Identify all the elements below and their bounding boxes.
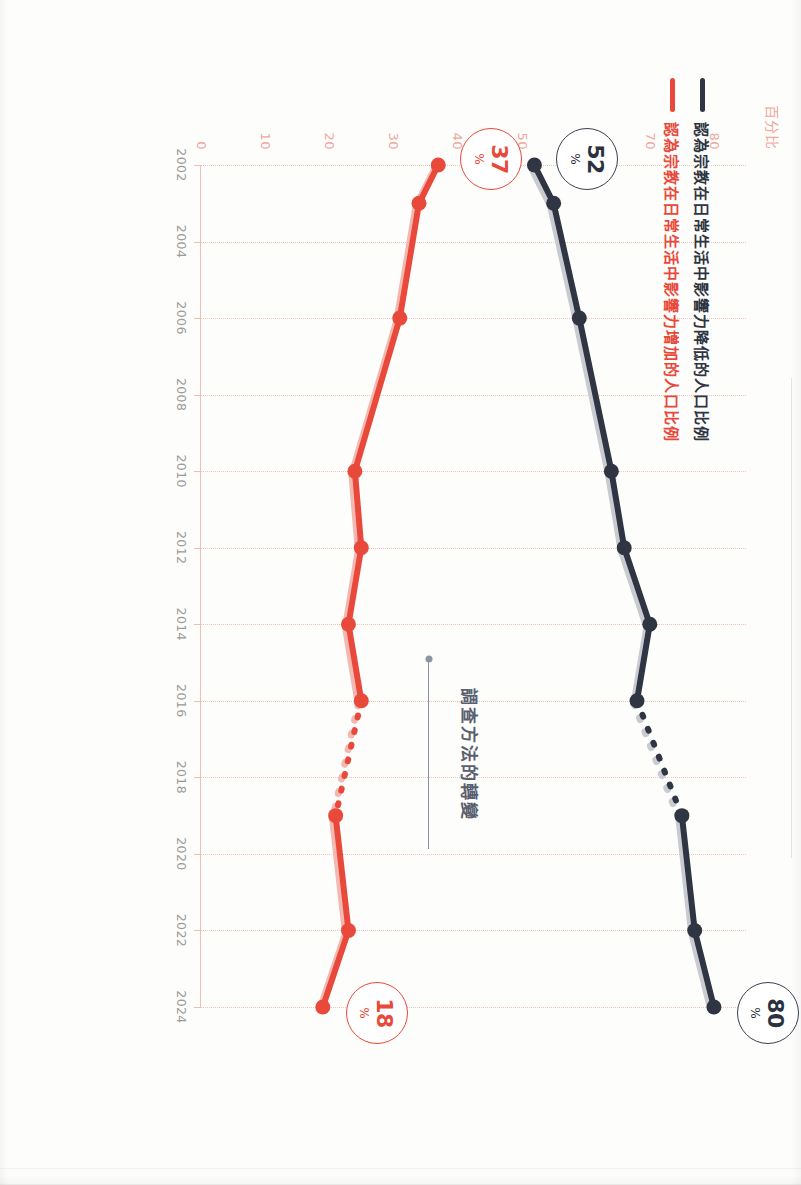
data-point-0-2014 (642, 617, 657, 632)
annotation-label: 調查方法的轉變 (458, 688, 483, 821)
legend-item-increase: 認為宗教在日常生活中影響力增加的人口比例 (662, 78, 683, 442)
annotation-anchor-dot (425, 656, 432, 663)
data-point-1-2024 (315, 1000, 330, 1015)
callout-start-red-value: 37 (488, 144, 510, 174)
data-point-1-2010 (347, 464, 362, 479)
data-point-0-2022 (687, 923, 702, 938)
data-point-1-2012 (354, 540, 369, 555)
data-point-1-2019 (328, 808, 343, 823)
callout-end-red: 18 % (346, 982, 408, 1044)
callout-end-dark-unit: % (749, 1007, 761, 1018)
data-point-0-2019 (674, 808, 689, 823)
legend-swatch-decrease (700, 78, 705, 112)
callout-start-red: 37 % (460, 128, 522, 190)
data-point-1-2022 (341, 923, 356, 938)
rotated-chart-stage: 百分比 01020304050607080 200220042006200820… (0, 0, 801, 1185)
legend-label-decrease: 認為宗教在日常生活中影響力降低的人口比例 (692, 122, 713, 442)
legend-item-decrease: 認為宗教在日常生活中影響力降低的人口比例 (692, 78, 713, 442)
series-0-line-seg-0 (534, 165, 649, 701)
line-chart-figure: 百分比 01020304050607080 200220042006200820… (0, 0, 801, 1185)
data-point-1-2014 (341, 617, 356, 632)
callout-start-red-unit: % (473, 153, 485, 164)
series-0-break-shadow (634, 704, 679, 819)
callout-start-dark-value: 52 (584, 144, 606, 174)
annotation-leader-line (428, 659, 429, 849)
callout-start-dark: 52 % (556, 128, 618, 190)
series-0-break-line (637, 701, 682, 816)
data-point-0-2006 (572, 311, 587, 326)
data-point-0-2002 (527, 158, 542, 173)
callout-end-dark-value: 80 (764, 998, 786, 1028)
data-point-1-2002 (431, 158, 446, 173)
data-point-0-2003 (546, 196, 561, 211)
callout-start-dark-unit: % (569, 153, 581, 164)
data-point-0-2010 (604, 464, 619, 479)
callout-end-red-value: 18 (373, 998, 395, 1028)
callout-end-dark: 80 % (737, 982, 799, 1044)
series-1-break-line (336, 701, 362, 816)
callout-end-red-unit: % (358, 1007, 370, 1018)
data-point-1-2003 (412, 196, 427, 211)
series-1-shadow (346, 168, 436, 704)
data-point-0-2012 (617, 540, 632, 555)
data-point-0-2016 (630, 693, 645, 708)
data-point-1-2016 (354, 693, 369, 708)
legend-label-increase: 認為宗教在日常生活中影響力增加的人口比例 (662, 122, 683, 442)
series-0-shadow (531, 168, 646, 704)
data-point-0-2024 (706, 1000, 721, 1015)
data-point-1-2006 (392, 311, 407, 326)
legend-swatch-increase (670, 78, 675, 112)
